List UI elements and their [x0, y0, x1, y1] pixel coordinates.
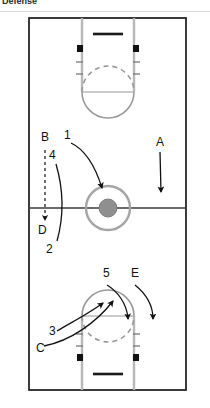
- label-E: E: [131, 266, 139, 280]
- label-B: B: [41, 130, 49, 144]
- label-4: 4: [49, 148, 56, 162]
- bottom-block-left-icon: [77, 354, 83, 361]
- diagram-root: Defense: [0, 0, 210, 408]
- label-1: 1: [64, 128, 71, 142]
- top-block-right-icon: [133, 45, 139, 52]
- label-5: 5: [103, 266, 110, 280]
- label-A: A: [156, 135, 164, 149]
- label-C: C: [36, 341, 45, 355]
- basketball-court-svg: B 1 4 A D 2 5 E 3 C: [0, 0, 210, 408]
- center-circle-inner: [99, 199, 117, 217]
- label-3: 3: [49, 324, 56, 338]
- label-2: 2: [46, 242, 53, 256]
- bottom-block-right-icon: [133, 354, 139, 361]
- top-block-left-icon: [77, 45, 83, 52]
- label-D: D: [38, 223, 47, 237]
